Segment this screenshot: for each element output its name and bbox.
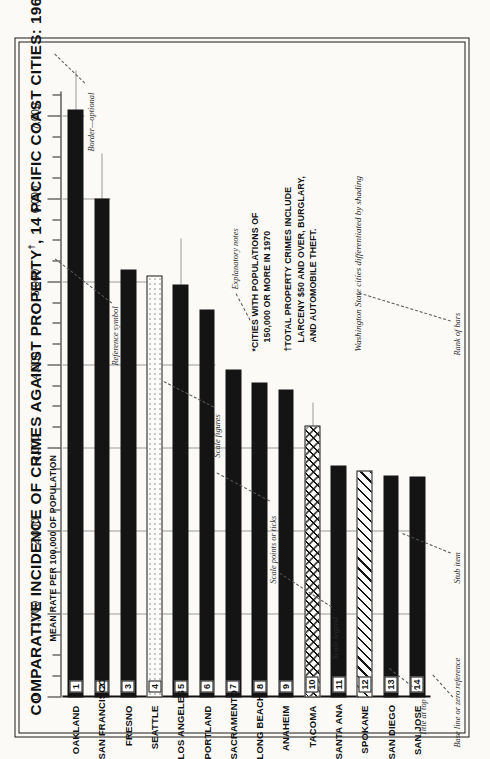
callout-scale-points: Scale points or ticks bbox=[268, 515, 277, 583]
scale-tick-minor bbox=[52, 489, 60, 490]
scale-tick-minor bbox=[52, 592, 60, 593]
bar-rank-number: 9 bbox=[279, 680, 292, 692]
scale-tick-minor bbox=[52, 385, 60, 386]
bar bbox=[356, 470, 372, 697]
scale-tick-major bbox=[47, 530, 60, 531]
scale-tick-major bbox=[47, 281, 60, 282]
plot-area: 01,0002,0003,0004,0005,0006,0007,000 123… bbox=[0, 0, 490, 759]
stub-item-label: ANAHEIM bbox=[280, 705, 291, 759]
scale-figure: 5,000 bbox=[28, 268, 40, 296]
bar bbox=[409, 476, 425, 697]
stub-item-label: PORTLAND bbox=[201, 705, 212, 759]
callout-rank-of-bars: Rank of bars bbox=[452, 312, 461, 355]
bar-rank-number: 6 bbox=[200, 680, 213, 692]
scale-tick-minor bbox=[52, 655, 60, 656]
bar-rank-number: 11 bbox=[332, 676, 345, 692]
stub-item-label: SACRAMENTO bbox=[227, 705, 238, 759]
stub-item-label: LONG BEACH bbox=[254, 705, 265, 759]
bar-rank-number: 1 bbox=[69, 680, 82, 692]
scale-tick-minor bbox=[52, 551, 60, 552]
scale-tick-major bbox=[47, 198, 60, 199]
stub-item-label: OAKLAND bbox=[70, 705, 81, 759]
scale-tick-minor bbox=[52, 323, 60, 324]
bar bbox=[251, 382, 267, 697]
note-dagger-line1: †TOTAL PROPERTY CRIMES INCLUDE bbox=[281, 175, 293, 351]
scale-tick-minor bbox=[52, 157, 60, 158]
stub-item-label: SPOKANE bbox=[359, 705, 370, 759]
scale-tick-minor bbox=[52, 302, 60, 303]
callout-border-optional: Border—optional bbox=[86, 92, 95, 151]
scale-tick-minor bbox=[52, 426, 60, 427]
stub-item-label: LOS ANGELES bbox=[175, 705, 186, 759]
scale-figure: 7,000 bbox=[28, 102, 40, 130]
scale-tick-major bbox=[47, 364, 60, 365]
scale-figure: 1,000 bbox=[28, 600, 40, 628]
scale-tick-minor bbox=[52, 675, 60, 676]
bar bbox=[172, 284, 188, 697]
callout-scale-figures: Scale figures bbox=[212, 414, 221, 457]
callout-scale-legend: Scale legend bbox=[330, 616, 339, 659]
bar-tip-rule bbox=[180, 238, 181, 284]
scale-tick-major bbox=[47, 115, 60, 116]
bar bbox=[94, 198, 110, 697]
note-dagger-line3: AND AUTOMOBILE THEFT. bbox=[306, 175, 318, 351]
scale-tick-major bbox=[47, 613, 60, 614]
bar-rank-number: 12 bbox=[358, 676, 371, 692]
scale-tick-minor bbox=[52, 509, 60, 510]
stub-item-label: TACOMA bbox=[306, 705, 317, 759]
scale-tick-minor bbox=[52, 136, 60, 137]
scale-tick-minor bbox=[52, 343, 60, 344]
scale-figure: 2,000 bbox=[28, 517, 40, 545]
scale-tick-minor bbox=[52, 634, 60, 635]
scale-figure: 3,000 bbox=[28, 434, 40, 462]
bar-rank-number: 13 bbox=[384, 676, 397, 692]
scale-tick-minor bbox=[52, 240, 60, 241]
scale-figure: 4,000 bbox=[28, 351, 40, 379]
callout-title-at-top: Title at top bbox=[418, 699, 427, 735]
explanatory-notes: *CITIES WITH POPULATIONS OF 150,000 OR M… bbox=[248, 175, 318, 351]
gridline bbox=[62, 364, 215, 365]
bar-rank-number: 10 bbox=[305, 676, 318, 692]
scale-figure: 0 bbox=[28, 694, 40, 700]
scale-tick-minor bbox=[52, 468, 60, 469]
stub-item-label: SEATTLE bbox=[149, 705, 160, 759]
zero-baseline bbox=[62, 695, 430, 697]
bar-tip-rule bbox=[101, 153, 102, 199]
stub-item-label: FRESNO bbox=[122, 705, 133, 759]
shading-note: Washington State cities differentiated b… bbox=[352, 175, 362, 351]
bar bbox=[383, 475, 399, 697]
scale-tick-minor bbox=[52, 94, 60, 95]
scale-tick-major bbox=[47, 696, 60, 697]
stub-item-label: SANTA ANA bbox=[333, 705, 344, 759]
stub-item-label: SAN FRANCISCO bbox=[96, 705, 107, 759]
bar-rank-number: 3 bbox=[121, 680, 134, 692]
bar bbox=[146, 275, 162, 697]
bar bbox=[278, 389, 294, 697]
scale-tick-major bbox=[47, 447, 60, 448]
rotated-chart-stage: COMPARATIVE INCIDENCE OF CRIMES AGAINST … bbox=[0, 0, 490, 759]
callout-reference-symbol: Reference symbol bbox=[110, 306, 119, 365]
callout-stub-item: Stub item bbox=[452, 552, 461, 583]
bar-rank-number: 8 bbox=[253, 680, 266, 692]
callout-explanatory-notes: Explanatory notes bbox=[230, 228, 239, 289]
scale-figure: 6,000 bbox=[28, 185, 40, 213]
bar bbox=[120, 269, 136, 697]
bar bbox=[199, 309, 215, 697]
note-asterisk-line1: *CITIES WITH POPULATIONS OF bbox=[248, 175, 260, 351]
scale-tick-minor bbox=[52, 219, 60, 220]
scale-tick-minor bbox=[52, 406, 60, 407]
bar bbox=[304, 425, 320, 697]
callout-base-line: Base line or zero reference bbox=[452, 657, 461, 747]
scale-axis-line bbox=[60, 91, 61, 697]
note-asterisk-line2: 150,000 OR MORE IN 1970 bbox=[260, 175, 272, 351]
note-dagger-line2: LARCENY $50 AND OVER, BURGLARY, bbox=[294, 175, 306, 351]
scale-tick-minor bbox=[52, 177, 60, 178]
bar bbox=[330, 465, 346, 697]
bar-rank-number: 4 bbox=[148, 680, 161, 692]
stub-item-label: SAN DIEGO bbox=[385, 705, 396, 759]
chart-page: COMPARATIVE INCIDENCE OF CRIMES AGAINST … bbox=[0, 0, 490, 759]
bar bbox=[67, 109, 83, 697]
bar bbox=[225, 369, 241, 697]
scale-tick-minor bbox=[52, 572, 60, 573]
